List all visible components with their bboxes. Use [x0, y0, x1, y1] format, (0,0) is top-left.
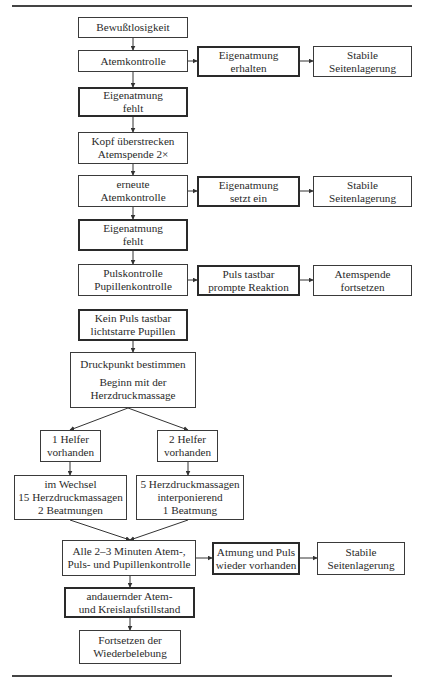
node-text: setzt ein [230, 192, 267, 205]
node-text: wieder vorhanden [216, 559, 296, 572]
node-text: und Kreislaufstillstand [79, 603, 181, 616]
node-text: 1 Helfer [52, 433, 89, 446]
node-text: 1 Beatmung [163, 504, 217, 517]
node-text: Eigenatmung [219, 179, 279, 192]
node-text: lichtstarre Pupillen [91, 325, 176, 338]
node-kein-puls: Kein Puls tastbar lichtstarre Pupillen [78, 309, 188, 341]
node-text: Fortsetzen der [98, 634, 162, 647]
node-stabile-seitenlagerung-3: Stabile Seitenlagerung [317, 542, 405, 575]
node-puls-tastbar: Puls tastbar prompte Reaktion [197, 265, 300, 296]
node-druckpunkt-bestimmen: Druckpunkt bestimmen Beginn mit der Herz… [70, 352, 196, 408]
node-atmung-und-puls-vorhanden: Atmung und Puls wieder vorhanden [212, 542, 300, 575]
node-atemspende-fortsetzen: Atemspende fortsetzen [313, 265, 412, 296]
node-1-helfer-wechsel: im Wechsel 15 Herzdruckmassagen 2 Beatmu… [14, 475, 127, 520]
node-stabile-seitenlagerung-1: Stabile Seitenlagerung [313, 46, 412, 77]
node-text: Seitenlagerung [327, 559, 394, 572]
node-text: Atemspende 2× [98, 148, 169, 161]
node-text: Eigenatmung [103, 89, 163, 102]
node-text: Pupillenkontrolle [94, 280, 172, 293]
node-text: vorhanden [47, 446, 94, 459]
node-text: Seitenlagerung [329, 192, 396, 205]
node-alle-2-3-minuten: Alle 2–3 Minuten Atem-, Puls- und Pupill… [62, 540, 196, 576]
node-text: fortsetzen [340, 281, 384, 294]
node-text: Atemspende [335, 268, 391, 281]
node-stabile-seitenlagerung-2: Stabile Seitenlagerung [313, 176, 412, 207]
node-eigenatmung-erhalten: Eigenatmung erhalten [197, 46, 300, 77]
node-text: fehlt [123, 102, 144, 115]
node-text: 2 Helfer [169, 433, 206, 446]
node-text: Alle 2–3 Minuten Atem-, [72, 545, 185, 558]
node-text: interponierend [157, 491, 222, 504]
node-text: vorhanden [164, 446, 211, 459]
node-text: Atemkontrolle [100, 191, 165, 204]
node-text: Bewußtlosigkeit [96, 21, 169, 34]
node-1-helfer: 1 Helfer vorhanden [40, 430, 101, 462]
node-text: im Wechsel [44, 478, 96, 491]
node-eigenatmung-fehlt-1: Eigenatmung fehlt [78, 87, 188, 117]
node-text: fehlt [123, 235, 144, 248]
node-text: Kopf überstrecken [92, 135, 175, 148]
node-text: prompte Reaktion [208, 281, 288, 294]
node-text: Kein Puls tastbar [95, 312, 171, 325]
node-text: Druckpunkt bestimmen [80, 358, 185, 371]
node-text: Eigenatmung [219, 49, 279, 62]
node-text: 15 Herzdruckmassagen [18, 491, 123, 504]
node-text: 2 Beatmungen [38, 504, 103, 517]
node-eigenatmung-fehlt-2: Eigenatmung fehlt [78, 219, 188, 251]
node-text: Pulskontrolle [103, 267, 163, 280]
node-text: Wiederbelebung [93, 647, 166, 660]
node-text: Puls- und Pupillenkontrolle [67, 558, 190, 571]
node-text: Stabile [347, 49, 378, 62]
node-text: Puls tastbar [223, 268, 275, 281]
node-text: 5 Herzdruckmassagen [140, 478, 239, 491]
node-pulskontrolle: Pulskontrolle Pupillenkontrolle [78, 264, 188, 296]
node-2-helfer-interponierend: 5 Herzdruckmassagen interponierend 1 Bea… [136, 475, 244, 520]
node-atemkontrolle: Atemkontrolle [78, 50, 188, 72]
node-text: andauernder Atem- [86, 590, 172, 603]
bottom-rule [12, 675, 392, 677]
node-fortsetzen-wiederbelebung: Fortsetzen der Wiederbelebung [79, 630, 181, 664]
node-text: erneute [117, 178, 150, 191]
node-text: erhalten [230, 62, 266, 75]
node-text: Stabile [345, 546, 376, 559]
node-kopf-ueberstrecken: Kopf überstrecken Atemspende 2× [78, 132, 188, 164]
node-erneute-atemkontrolle: erneute Atemkontrolle [78, 175, 188, 207]
node-andauernder-stillstand: andauernder Atem- und Kreislaufstillstan… [64, 587, 195, 618]
node-eigenatmung-setzt-ein: Eigenatmung setzt ein [197, 176, 300, 207]
node-text: Stabile [347, 179, 378, 192]
node-text: Beginn mit der [99, 376, 166, 389]
node-bewusstlosigkeit: Bewußtlosigkeit [78, 17, 188, 38]
node-2-helfer: 2 Helfer vorhanden [157, 430, 218, 462]
node-text: Seitenlagerung [329, 62, 396, 75]
node-text: Atmung und Puls [217, 546, 295, 559]
node-text: Eigenatmung [103, 222, 163, 235]
node-text: Herzdruckmassage [90, 389, 175, 402]
node-text: Atemkontrolle [100, 55, 165, 68]
